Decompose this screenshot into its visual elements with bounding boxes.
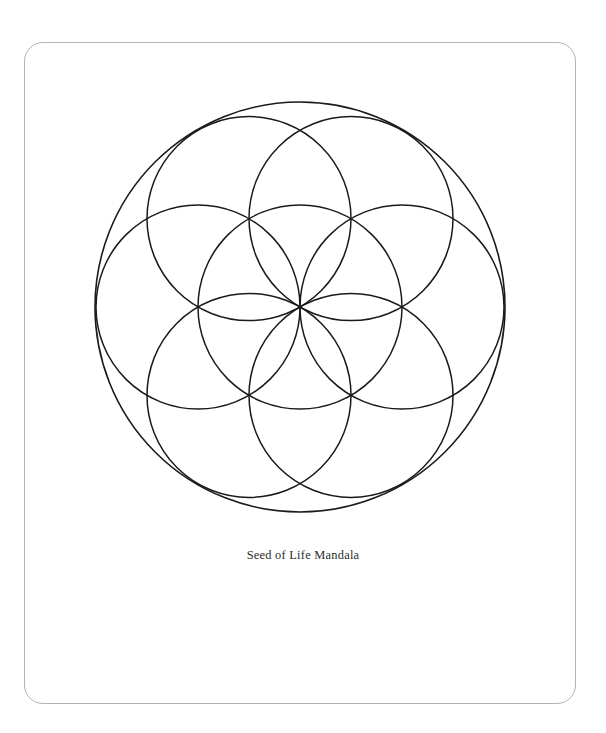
page-canvas: Seed of Life Mandala (0, 0, 606, 733)
rounded-border-frame (24, 42, 576, 704)
mandala-caption: Seed of Life Mandala (0, 548, 606, 563)
